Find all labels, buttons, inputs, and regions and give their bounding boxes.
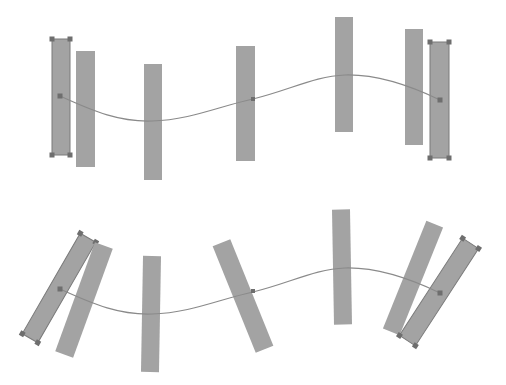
corner-handle[interactable] (68, 153, 73, 158)
bottom-rect-5[interactable] (332, 209, 352, 324)
corner-handle[interactable] (68, 37, 73, 42)
corner-handle[interactable] (50, 153, 55, 158)
top-rect-4[interactable] (236, 46, 255, 161)
top-panel-unrotated (50, 17, 452, 180)
path-endpoint-handle-1[interactable] (58, 287, 63, 292)
rect-shape[interactable] (236, 46, 255, 161)
corner-handle[interactable] (428, 156, 433, 161)
bottom-rect-4[interactable] (213, 239, 274, 353)
rect-shape[interactable] (144, 64, 162, 180)
path-endpoint-handle-2[interactable] (438, 98, 443, 103)
bottom-panel-rotated (19, 209, 482, 372)
path-midpoint-handle[interactable] (251, 289, 255, 293)
top-rect-2[interactable] (76, 51, 95, 167)
path-endpoint-handle-1[interactable] (58, 94, 63, 99)
path-midpoint-handle[interactable] (251, 97, 255, 101)
corner-handle[interactable] (50, 37, 55, 42)
rect-shape[interactable] (332, 209, 352, 324)
corner-handle[interactable] (447, 40, 452, 45)
corner-handle[interactable] (447, 156, 452, 161)
corner-handle[interactable] (428, 40, 433, 45)
path-endpoint-handle-2[interactable] (438, 291, 443, 296)
rect-shape[interactable] (213, 239, 274, 353)
top-rect-3[interactable] (144, 64, 162, 180)
diagram-canvas (0, 0, 506, 385)
rect-shape[interactable] (76, 51, 95, 167)
